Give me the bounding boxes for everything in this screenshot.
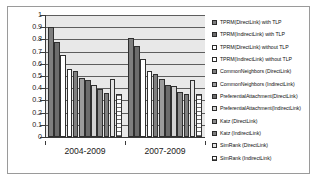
x-axis-tick-mark: [205, 141, 206, 145]
bar: [147, 71, 153, 137]
x-axis-line: [45, 137, 205, 138]
plot-wrapper: 10.90.80.70.60.50.40.30.20.10 2004-20092…: [22, 15, 208, 163]
bar: [54, 42, 60, 137]
legend-swatch-icon: [212, 131, 217, 136]
legend-item: SimRank (DirectLink): [212, 140, 268, 151]
legend-swatch-icon: [212, 106, 217, 111]
x-axis-tick-mark: [45, 141, 46, 145]
bar: [140, 59, 146, 137]
x-axis-tick-mark: [125, 141, 126, 145]
legend-label: PreferentialAttachment(IndirectLink): [220, 106, 301, 111]
y-axis-tick-mark: [40, 27, 45, 28]
legend-label: PreferentialAttachment(DirectLink): [220, 94, 298, 99]
y-axis-tick-label: 0.5: [22, 72, 42, 79]
legend-item: SimRank (IndirectLink): [212, 153, 271, 164]
y-axis-tick-label: 0: [22, 133, 42, 140]
bar: [165, 85, 171, 137]
y-axis-tick-label: 0.2: [22, 109, 42, 116]
legend-item: PreferentialAttachment(DirectLink): [212, 91, 298, 102]
bar: [128, 38, 134, 137]
legend-swatch-icon: [212, 45, 217, 50]
legend-swatch-icon: [212, 143, 217, 148]
y-axis-tick-label: 0.7: [22, 48, 42, 55]
bar: [171, 86, 177, 137]
legend-swatch-icon: [212, 82, 217, 87]
bar: [190, 80, 196, 137]
legend-item: TPRM(IndirectLink) without TLP: [212, 54, 292, 65]
legend-label: SimRank (DirectLink): [220, 143, 268, 148]
y-axis-tick-mark: [40, 52, 45, 53]
chart-legend: TPRM(DirectLink) with TLPTPRM(IndirectLi…: [212, 17, 310, 165]
legend-item: CommonNeighbors (IndirectLink): [212, 79, 295, 90]
legend-swatch-icon: [212, 69, 217, 74]
legend-swatch-icon: [212, 32, 217, 37]
legend-swatch-icon: [212, 94, 217, 99]
y-axis-tick-mark: [40, 137, 45, 138]
y-axis-tick-label: 0.9: [22, 24, 42, 31]
bar: [159, 79, 165, 137]
bar: [134, 46, 140, 138]
y-axis-tick-mark: [40, 15, 45, 16]
y-axis-tick-label: 0.1: [22, 121, 42, 128]
y-axis-tick-mark: [40, 100, 45, 101]
legend-item: CommonNeighbors (DirectLink): [212, 66, 291, 77]
legend-item: Katz (DirectLink): [212, 116, 258, 127]
bars-layer: [45, 15, 205, 137]
bar: [116, 94, 122, 137]
bar: [91, 85, 97, 137]
y-axis-tick-mark: [40, 76, 45, 77]
y-axis-labels: 10.90.80.70.60.50.40.30.20.10: [22, 15, 42, 137]
legend-swatch-icon: [212, 20, 217, 25]
legend-item: TPRM(DirectLink) without TLP: [212, 42, 289, 53]
legend-label: Katz (DirectLink): [220, 119, 258, 124]
y-axis-tick-mark: [40, 64, 45, 65]
legend-label: TPRM(IndirectLink) without TLP: [220, 57, 292, 62]
legend-swatch-icon: [212, 57, 217, 62]
bar: [110, 79, 116, 137]
bar-group: [45, 15, 125, 137]
bar: [48, 27, 54, 137]
bar: [60, 55, 66, 137]
legend-item: TPRM(IndirectLink) with TLP: [212, 29, 285, 40]
x-axis-tick-label: 2004-2009: [45, 147, 125, 156]
y-axis-tick-mark: [40, 113, 45, 114]
legend-label: TPRM(DirectLink) with TLP: [220, 20, 282, 25]
bar: [67, 69, 73, 137]
bar: [196, 94, 202, 137]
x-axis-labels: 2004-20092007-2009: [45, 141, 205, 161]
legend-label: TPRM(DirectLink) without TLP: [220, 45, 289, 50]
x-axis-tick-label: 2007-2009: [125, 147, 205, 156]
y-axis-tick-mark: [40, 39, 45, 40]
legend-item: TPRM(DirectLink) with TLP: [212, 17, 282, 28]
bar-group: [125, 15, 205, 137]
bar: [73, 71, 79, 137]
chart-frame: 10.90.80.70.60.50.40.30.20.10 2004-20092…: [7, 6, 310, 174]
legend-swatch-icon: [212, 119, 217, 124]
legend-label: Katz (IndirectLink): [220, 131, 261, 136]
bar: [79, 78, 85, 137]
y-axis-tick-label: 1: [22, 11, 42, 18]
bar: [104, 93, 110, 137]
y-axis-tick-mark: [40, 125, 45, 126]
y-axis-tick-label: 0.8: [22, 36, 42, 43]
legend-label: SimRank (IndirectLink): [220, 156, 271, 161]
legend-item: Katz (IndirectLink): [212, 128, 261, 139]
legend-item: PreferentialAttachment(IndirectLink): [212, 103, 301, 114]
y-axis-tick-label: 0.4: [22, 85, 42, 92]
legend-swatch-icon: [212, 156, 217, 161]
bar: [153, 74, 159, 137]
y-axis-tick-mark: [40, 88, 45, 89]
y-axis-tick-label: 0.3: [22, 97, 42, 104]
bar: [97, 89, 103, 137]
bar: [177, 92, 183, 137]
legend-label: TPRM(IndirectLink) with TLP: [220, 32, 285, 37]
legend-label: CommonNeighbors (DirectLink): [220, 69, 291, 74]
y-axis-tick-label: 0.6: [22, 60, 42, 67]
legend-label: CommonNeighbors (IndirectLink): [220, 82, 295, 87]
bar: [85, 80, 91, 137]
bar: [184, 94, 190, 137]
